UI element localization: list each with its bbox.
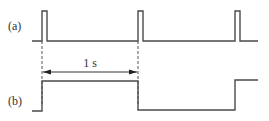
period-label: 1 s (83, 56, 97, 70)
period-dimension-arrow (43, 70, 137, 75)
timing-diagram: 1 s (a) (b) (0, 0, 269, 121)
signal-b-waveform (32, 80, 258, 111)
arrowhead-left-icon (43, 70, 51, 75)
signal-b-label: (b) (8, 94, 22, 108)
arrowhead-right-icon (129, 70, 137, 75)
signal-a-label: (a) (8, 19, 21, 33)
signal-a-waveform (32, 11, 258, 41)
